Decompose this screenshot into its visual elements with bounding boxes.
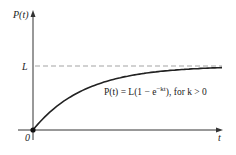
asymptote-label: L: [21, 61, 28, 72]
curve-line: [33, 68, 222, 130]
chart-canvas: P(t) L 0 t P(t) = L(1 − e−kt), for k > 0: [0, 0, 236, 155]
y-axis-arrow-icon: [31, 10, 36, 17]
formula-suffix: ), for k > 0: [166, 87, 207, 98]
x-axis-label: t: [218, 132, 221, 143]
formula-annotation: P(t) = L(1 − e−kt), for k > 0: [104, 85, 207, 98]
formula-prefix: P(t) = L(1 − e: [104, 87, 156, 98]
origin-label: 0: [25, 132, 30, 143]
y-axis-label: P(t): [12, 9, 29, 21]
formula-exponent: −kt: [156, 85, 165, 93]
origin-point: [30, 127, 35, 132]
